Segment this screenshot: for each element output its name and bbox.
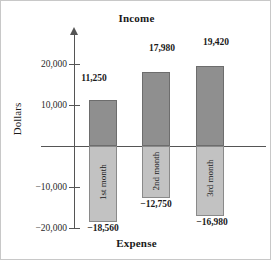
y-tick-label: −20,000	[7, 223, 67, 233]
bar-category-label-1: 1st month	[98, 147, 108, 217]
plot-area: 20,000 10,000 −10,000 −20,000 11,250 1st…	[1, 1, 271, 260]
y-tick-label: 20,000	[7, 59, 67, 69]
bar-chart: Income Expense Dollars 20,000 10,000 −10…	[0, 0, 271, 260]
bar-value-expense-1: −18,560	[68, 223, 138, 233]
bar-value-income-1: 11,250	[59, 73, 129, 83]
y-axis-arrow-icon	[70, 27, 78, 35]
bar-income-3[interactable]	[196, 66, 224, 146]
bar-value-income-3: 19,420	[181, 37, 251, 47]
bar-value-expense-2: −12,750	[121, 199, 191, 209]
y-tick-mark	[69, 187, 80, 188]
bar-category-label-2: 2nd month	[151, 136, 161, 206]
y-tick-label: −10,000	[7, 182, 67, 192]
bar-value-expense-3: −16,980	[177, 217, 247, 227]
y-tick-mark	[69, 64, 80, 65]
y-tick-mark	[69, 105, 80, 106]
bar-category-label-3: 3rd month	[205, 143, 215, 213]
bar-income-1[interactable]	[89, 100, 117, 146]
y-tick-label: 10,000	[7, 100, 67, 110]
bar-income-2[interactable]	[142, 72, 170, 146]
